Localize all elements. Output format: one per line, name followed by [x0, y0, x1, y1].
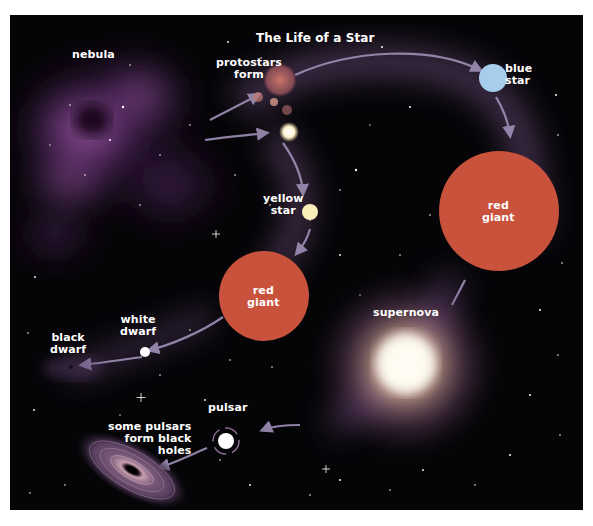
black-dwarf	[42, 356, 102, 380]
label-supernova: supernova	[373, 307, 439, 319]
life-of-star-diagram: The Life of a Star nebula protostars for…	[10, 15, 583, 510]
label-yellow-star-line2: star	[263, 205, 304, 217]
label-red-giant-small: red giant	[247, 285, 280, 309]
yellow-star	[302, 204, 318, 220]
label-red-giant-large: red giant	[482, 200, 515, 224]
nebula-cloud	[10, 35, 240, 270]
label-red-giant-small-line2: giant	[247, 297, 280, 309]
label-red-giant-large-line2: giant	[482, 212, 515, 224]
label-black-dwarf: black dwarf	[50, 332, 86, 356]
label-blue-star-line2: star	[505, 75, 532, 87]
label-black-holes: some pulsars form black holes	[108, 421, 191, 457]
label-white-dwarf: white dwarf	[120, 314, 156, 338]
white-dwarf	[140, 347, 150, 357]
label-white-dwarf-line2: dwarf	[120, 326, 156, 338]
label-yellow-star: yellow star	[263, 193, 304, 217]
diagram-artwork	[10, 15, 583, 510]
label-blue-star: blue star	[505, 63, 532, 87]
label-black-dwarf-line2: dwarf	[50, 344, 86, 356]
label-protostars: protostars form	[216, 57, 282, 81]
label-protostars-line2: form	[216, 69, 282, 81]
pulsar	[213, 428, 239, 454]
label-nebula: nebula	[72, 49, 115, 61]
blue-star	[479, 64, 507, 92]
diagram-title: The Life of a Star	[256, 32, 374, 44]
label-pulsar: pulsar	[208, 402, 247, 414]
label-black-holes-line3: holes	[108, 445, 191, 457]
